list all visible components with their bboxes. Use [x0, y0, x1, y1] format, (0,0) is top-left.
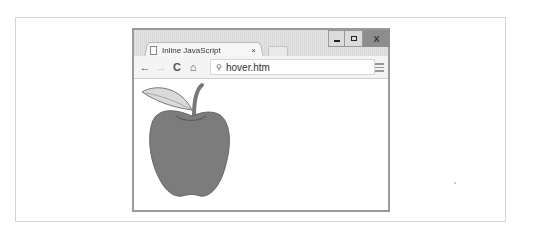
close-window-button[interactable]: X — [363, 30, 390, 47]
forward-button[interactable]: → — [153, 61, 169, 73]
page-content — [134, 79, 388, 210]
browser-window: Inline JavaScript × X ← → C ⌂ ⚲ hover.ht… — [132, 28, 390, 212]
address-bar[interactable]: ⚲ hover.htm — [210, 59, 375, 75]
apple-image — [140, 82, 236, 210]
menu-button[interactable] — [375, 61, 384, 74]
maximize-button[interactable] — [345, 30, 363, 47]
tab-inline-javascript[interactable]: Inline JavaScript × — [148, 43, 260, 57]
search-icon: ⚲ — [216, 63, 222, 72]
home-button[interactable]: ⌂ — [185, 61, 201, 73]
new-tab-button[interactable] — [268, 46, 288, 56]
address-value: hover.htm — [226, 62, 270, 73]
title-bar: Inline JavaScript × X — [134, 30, 388, 56]
reload-button[interactable]: C — [169, 61, 185, 73]
minimize-icon — [334, 40, 340, 42]
menu-icon — [375, 63, 384, 65]
tab-title: Inline JavaScript — [162, 46, 221, 55]
minimize-button[interactable] — [328, 30, 345, 47]
maximize-icon — [351, 36, 357, 41]
back-button[interactable]: ← — [137, 61, 153, 73]
tab-close-button[interactable]: × — [251, 46, 260, 55]
document-icon — [150, 46, 157, 55]
speck — [454, 182, 456, 184]
browser-toolbar: ← → C ⌂ ⚲ hover.htm — [134, 56, 388, 79]
